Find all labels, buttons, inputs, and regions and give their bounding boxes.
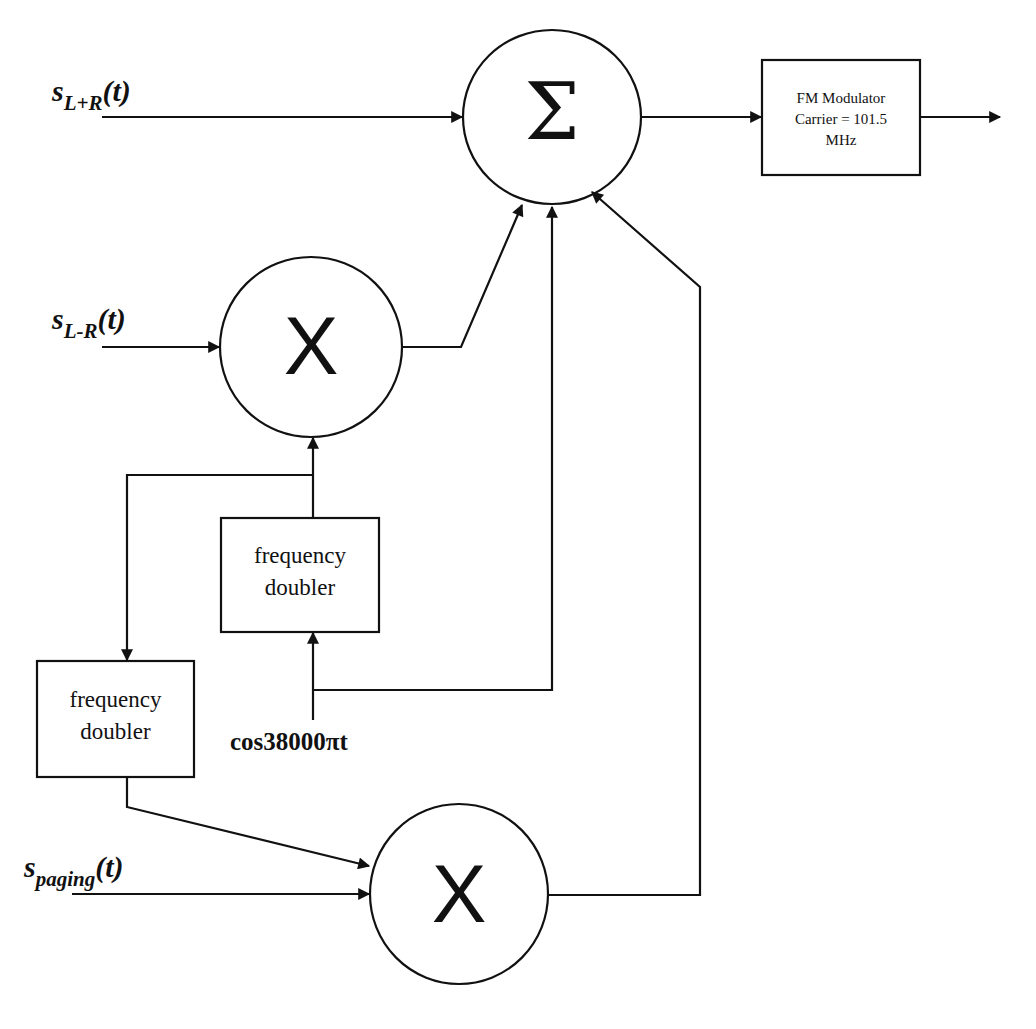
- signal-suffix: (t): [103, 74, 131, 107]
- signal-subscript: paging: [36, 867, 96, 891]
- fm-modulator-line1: FM Modulator: [762, 88, 920, 109]
- fm-stereo-block-diagram: Σ X X FM Modulator Carrier = 101.5 MHz f…: [0, 0, 1036, 1029]
- wire-doubler-lower-to-mult: [127, 777, 369, 866]
- signal-label-s-paging: spaging(t): [24, 850, 124, 892]
- signal-base: s: [52, 302, 64, 335]
- carrier-label: cos38000πt: [230, 728, 348, 756]
- signal-label-s-lmr: sL-R(t): [52, 302, 126, 344]
- signal-suffix: (t): [98, 302, 126, 335]
- wire-mult-top-to-summer: [402, 205, 522, 347]
- frequency-doubler-upper-label: frequency doubler: [221, 540, 379, 604]
- signal-label-s-lpr: sL+R(t): [52, 74, 131, 116]
- summer-symbol: Σ: [502, 62, 602, 162]
- signal-base: s: [24, 850, 36, 883]
- doubler-lower-line2: doubler: [37, 716, 194, 748]
- signal-base: s: [52, 74, 64, 107]
- fm-modulator-line3: MHz: [762, 130, 920, 151]
- signal-suffix: (t): [95, 850, 123, 883]
- fm-modulator-line2: Carrier = 101.5: [762, 109, 920, 130]
- wire-carrier-to-summer: [313, 207, 552, 690]
- doubler-upper-line2: doubler: [221, 572, 379, 604]
- frequency-doubler-lower-label: frequency doubler: [37, 684, 194, 748]
- doubler-lower-line1: frequency: [37, 684, 194, 716]
- wire-mult-bottom-to-summer: [548, 192, 700, 895]
- fm-modulator-label: FM Modulator Carrier = 101.5 MHz: [762, 88, 920, 151]
- signal-subscript: L+R: [64, 91, 103, 115]
- doubler-upper-line1: frequency: [221, 540, 379, 572]
- signal-subscript: L-R: [64, 319, 98, 343]
- multiplier-bottom-symbol: X: [409, 844, 509, 944]
- multiplier-top-symbol: X: [261, 296, 361, 396]
